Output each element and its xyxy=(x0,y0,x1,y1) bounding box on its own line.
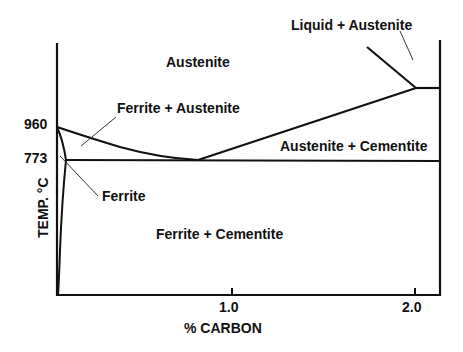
y-tick-label-960: 960 xyxy=(24,116,47,132)
eutectoid-line xyxy=(66,160,440,161)
x-tick-label-1: 1.0 xyxy=(219,299,238,315)
x-tick-label-2: 2.0 xyxy=(402,299,421,315)
label-ferrite: Ferrite xyxy=(102,188,146,204)
ferrite-a3-boundary xyxy=(57,127,66,160)
label-austenite-cementite: Austenite + Cementite xyxy=(280,138,427,154)
label-austenite: Austenite xyxy=(166,54,230,70)
label-ferrite-cementite: Ferrite + Cementite xyxy=(156,226,283,242)
a3-line xyxy=(57,127,198,160)
liquidus-line xyxy=(367,47,416,88)
y-axis-label: TEMP. °C xyxy=(35,177,51,238)
label-ferrite-austenite: Ferrite + Austenite xyxy=(117,100,240,116)
leader-ferrite xyxy=(60,156,98,196)
label-liquid-austenite: Liquid + Austenite xyxy=(291,17,412,33)
leader-ferrite-austenite xyxy=(81,117,116,146)
ferrite-solvus-line xyxy=(58,160,66,295)
y-tick-label-773: 773 xyxy=(24,150,47,166)
x-axis-label: % CARBON xyxy=(184,320,262,336)
leader-liquid-austenite xyxy=(400,31,413,60)
